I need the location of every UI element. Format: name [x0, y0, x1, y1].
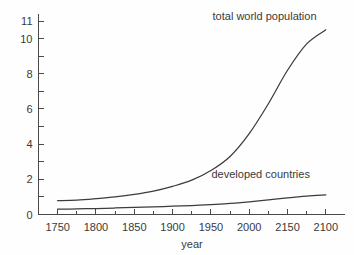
y-tick-label: 6	[26, 103, 32, 115]
x-axis-title: year	[181, 238, 203, 250]
y-tick-label: 8	[26, 68, 32, 80]
population-chart: 024681011 175018001850190019502000215021…	[0, 0, 354, 255]
y-tick-label: 4	[26, 138, 32, 150]
y-axis-major-ticks	[39, 21, 45, 214]
chart-canvas: 024681011 175018001850190019502000215021…	[0, 0, 354, 255]
x-tick-label: 2100	[314, 221, 338, 233]
x-tick-label: 1850	[122, 221, 146, 233]
series-label-total-world-population: total world population	[213, 10, 317, 22]
x-axis-minor-ticks	[77, 211, 307, 215]
x-tick-label: 1900	[160, 221, 184, 233]
x-tick-label: 1950	[199, 221, 223, 233]
curve-developed-countries	[58, 195, 326, 209]
y-tick-label: 2	[26, 173, 32, 185]
x-tick-label: 1800	[84, 221, 108, 233]
y-tick-label: 11	[21, 15, 32, 27]
x-tick-label: 1750	[45, 221, 69, 233]
y-axis-minor-ticks	[39, 56, 45, 197]
x-axis-tick-labels: 17501800185019001950200021502100	[45, 221, 338, 233]
y-axis-tick-labels: 024681011	[20, 15, 32, 220]
series-label-developed-countries: developed countries	[211, 168, 310, 180]
y-tick-label: 0	[26, 209, 32, 221]
y-tick-label: 10	[20, 33, 32, 45]
x-tick-label: 2150	[275, 221, 299, 233]
x-tick-label: 2000	[237, 221, 261, 233]
